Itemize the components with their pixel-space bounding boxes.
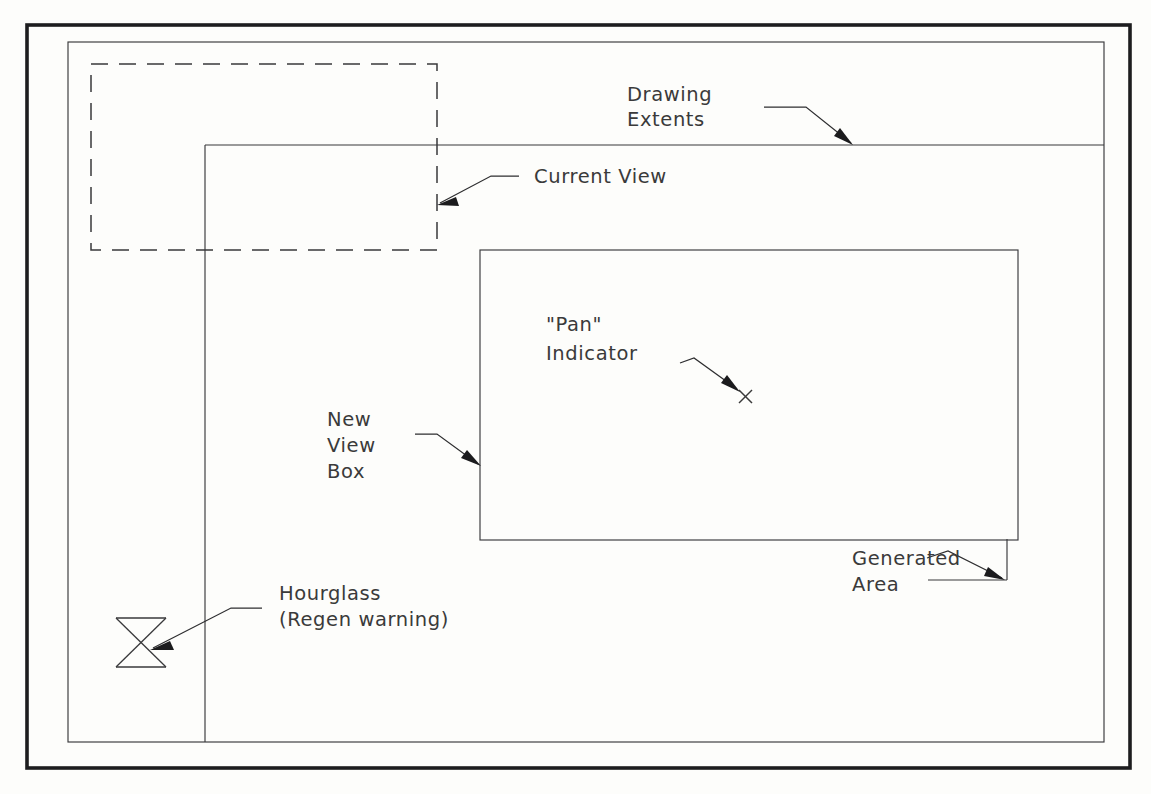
cad-drawing-svg: Drawing Extents Current View "Pan" Indic… (0, 0, 1151, 794)
generated-area-label-line1: Generated (852, 547, 961, 570)
hourglass-icon (116, 618, 166, 667)
new-view-box-label-line3: Box (327, 460, 365, 483)
hourglass-label-line2: (Regen warning) (279, 608, 449, 631)
diagram-canvas: Drawing Extents Current View "Pan" Indic… (0, 0, 1151, 794)
new-view-box-rect (480, 250, 1018, 540)
pan-indicator-label-line2: Indicator (546, 342, 638, 365)
current-view-label: Current View (534, 165, 667, 188)
hourglass-leader (150, 608, 262, 650)
drawing-extents-leader (764, 107, 853, 145)
current-view-leader (437, 176, 519, 206)
new-view-box-leader (415, 434, 481, 466)
drawing-extents-rect (68, 42, 1104, 742)
current-view-dashed-rect (91, 64, 437, 250)
hourglass-label-line1: Hourglass (279, 582, 381, 605)
generated-area-label-line2: Area (852, 573, 899, 596)
pan-indicator-leader (680, 358, 740, 392)
new-view-box-label-line1: New (327, 408, 371, 431)
pan-indicator-label-line1: "Pan" (546, 313, 602, 336)
new-view-box-label-line2: View (327, 434, 376, 457)
outer-frame-border (27, 25, 1130, 768)
pan-indicator-x-mark (739, 390, 752, 403)
drawing-extents-label-line2: Extents (627, 108, 705, 131)
drawing-extents-label-line1: Drawing (627, 83, 712, 106)
